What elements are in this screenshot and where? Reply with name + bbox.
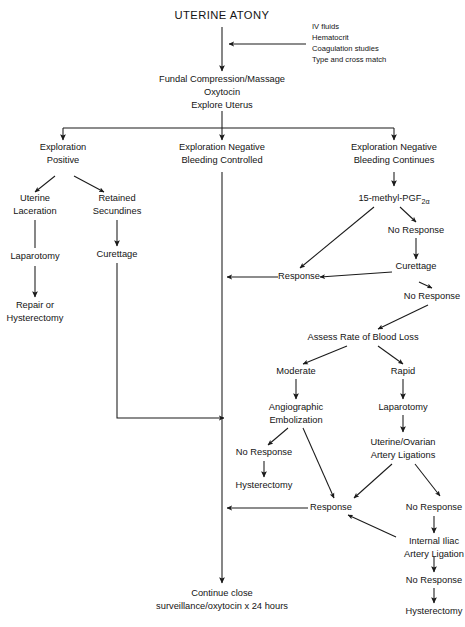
edge-ligations-to-response-lower	[354, 464, 392, 498]
node-response-lower: Response	[310, 502, 352, 512]
node-label-group: UTERINE ATONY IV fluids Hematocrit Coagu…	[7, 9, 464, 617]
node-hysterectomy-mid: Hysterectomy	[236, 480, 293, 490]
node-curettage-left: Curettage	[97, 249, 138, 259]
node-retained-secundines-line2: Secundines	[93, 206, 142, 216]
sidenote-line-type-and-cross-match: Type and cross match	[312, 55, 386, 64]
node-exploration-negative-continues-line2: Bleeding Continues	[354, 155, 435, 165]
prostaglandin-base-text: 15-methyl-PGF	[358, 193, 421, 203]
node-exploration-negative-continues-line1: Exploration Negative	[351, 142, 437, 152]
edge-embolization-to-no-response3	[268, 428, 288, 445]
node-no-response-3: No Response	[236, 447, 292, 457]
node-15-methyl-pgf2alpha: 15-methyl-PGF2α	[358, 193, 429, 205]
node-laparotomy-right: Laparotomy	[378, 402, 427, 412]
node-repair-or-hysterectomy-line2: Hysterectomy	[7, 313, 64, 323]
node-outcome-line1: Continue close	[191, 588, 253, 598]
flowchart-canvas: UTERINE ATONY IV fluids Hematocrit Coagu…	[0, 0, 465, 627]
node-uterine-atony-title: UTERINE ATONY	[175, 9, 270, 21]
node-exploration-positive-line1: Exploration	[40, 142, 87, 152]
node-curettage-right: Curettage	[396, 261, 437, 271]
node-retained-secundines-line1: Retained	[98, 193, 135, 203]
node-angiographic-embolization-line1: Angiographic	[269, 402, 324, 412]
node-no-response-5: No Response	[406, 575, 462, 585]
node-oxytocin: Oxytocin	[204, 87, 240, 97]
edge-assess-to-moderate	[303, 346, 347, 364]
node-internal-iliac-artery-ligation-line2: Artery Ligation	[404, 549, 464, 559]
edge-positive-to-laceration	[35, 176, 55, 192]
edge-prostaglandin-to-response	[300, 207, 374, 268]
sidenote-line-iv-fluids: IV fluids	[312, 22, 339, 31]
edge-no-response2-to-assess	[378, 305, 428, 329]
prostaglandin-subscript-text: 2α	[421, 197, 429, 206]
node-exploration-negative-controlled-line1: Exploration Negative	[179, 142, 265, 152]
edge-curettage-left-to-spine	[117, 263, 224, 418]
node-exploration-positive-line2: Positive	[47, 155, 80, 165]
node-fundal-compression-massage: Fundal Compression/Massage	[159, 74, 285, 84]
uterine-atony-flowchart: UTERINE ATONY IV fluids Hematocrit Coagu…	[0, 0, 465, 627]
node-rapid: Rapid	[391, 366, 415, 376]
node-laparotomy-left: Laparotomy	[10, 251, 59, 261]
node-no-response-1: No Response	[388, 225, 444, 235]
node-angiographic-embolization-line2: Embolization	[269, 415, 322, 425]
edge-ligations-to-no-response4	[415, 464, 440, 496]
edge-prostaglandin-to-no-response	[400, 207, 416, 222]
sidenote-line-coagulation-studies: Coagulation studies	[312, 44, 379, 53]
edge-curettage-right-to-no-response2	[419, 282, 432, 288]
node-moderate: Moderate	[276, 366, 315, 376]
sidenote-line-hematocrit: Hematocrit	[312, 33, 350, 42]
node-uterine-laceration-line1: Uterine	[20, 193, 50, 203]
node-response-upper: Response	[278, 271, 320, 281]
node-outcome-line2: surveillance/oxytocin x 24 hours	[156, 601, 288, 611]
node-no-response-4: No Response	[406, 502, 462, 512]
node-uterine-laceration-line2: Laceration	[13, 206, 56, 216]
node-repair-or-line1: Repair or	[16, 300, 54, 310]
edge-embolization-to-response-lower	[303, 428, 334, 498]
node-explore-uterus: Explore Uterus	[191, 100, 253, 110]
edge-positive-to-secundines	[74, 176, 104, 192]
node-no-response-2: No Response	[404, 291, 460, 301]
edge-group	[35, 27, 440, 603]
node-hysterectomy-final: Hysterectomy	[406, 606, 463, 616]
node-uterine-ovarian-line1: Uterine/Ovarian	[370, 437, 435, 447]
node-exploration-negative-controlled-line2: Bleeding Controlled	[181, 155, 262, 165]
node-assess-rate-of-blood-loss: Assess Rate of Blood Loss	[307, 332, 418, 342]
edge-internal-iliac-to-response-lower	[348, 515, 396, 537]
node-internal-iliac-line1: Internal Iliac	[409, 536, 459, 546]
node-uterine-ovarian-artery-ligations-line2: Artery Ligations	[371, 450, 436, 460]
edge-curettage-right-to-response	[320, 272, 392, 277]
edge-assess-to-rapid	[378, 346, 403, 364]
